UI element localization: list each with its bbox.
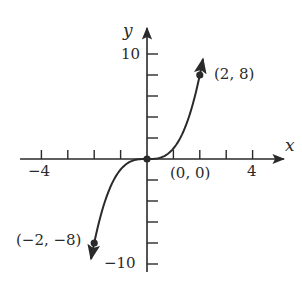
data-point [91,239,98,246]
x-tick-label-min: −4 [28,164,50,179]
y-tick-label-max: 10 [121,47,140,62]
point-label-positive: (2, 8) [214,67,254,82]
x-tick-label-max: 4 [247,164,257,179]
data-point [143,155,150,162]
point-label-negative: (−2, −8) [16,233,81,248]
y-tick-label-min: −10 [104,256,136,271]
y-axis-label: y [123,22,133,39]
x-axis-label: x [285,137,295,154]
point-label-origin: (0, 0) [170,166,210,181]
data-point [196,71,203,78]
